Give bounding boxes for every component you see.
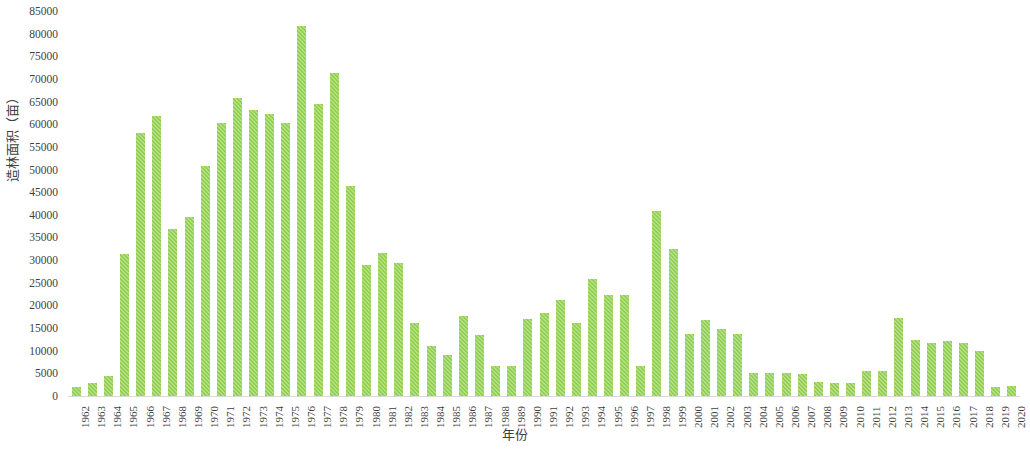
bar-1968[interactable] [168,229,177,397]
x-axis-tick-1968: 1968 [177,406,188,428]
y-axis-tick-15000: 15000 [29,323,58,335]
x-axis-tick-2013: 2013 [903,406,914,428]
y-axis-tick-85000: 85000 [29,6,58,18]
bar-2005[interactable] [765,373,774,397]
bar-1996[interactable] [620,295,629,397]
y-axis-tick-40000: 40000 [29,210,58,222]
plot-area [68,12,1020,397]
bar-1971[interactable] [217,123,226,397]
x-axis-tick-1977: 1977 [322,406,333,428]
bar-1993[interactable] [572,323,581,397]
bar-1998[interactable] [652,211,661,397]
bar-chart: 造林面积（亩） 05000100001500020000250003000035… [0,0,1030,450]
y-axis-tick-10000: 10000 [29,346,58,358]
x-axis-tick-1972: 1972 [241,406,252,428]
x-axis-tick-2020: 2020 [1016,406,1027,428]
x-axis-tick-2009: 2009 [838,406,849,428]
x-axis-tick-2019: 2019 [1000,406,1011,428]
bar-2014[interactable] [911,340,920,397]
x-axis-tick-1991: 1991 [548,406,559,428]
bar-1977[interactable] [314,104,323,397]
bar-2012[interactable] [878,371,887,397]
bar-1987[interactable] [475,335,484,397]
bar-1979[interactable] [346,186,355,397]
y-axis-tick-5000: 5000 [35,368,58,380]
x-axis-tick-1996: 1996 [629,406,640,428]
bar-1976[interactable] [297,26,306,397]
y-axis-tick-30000: 30000 [29,255,58,267]
bar-2011[interactable] [862,371,871,397]
bar-1984[interactable] [427,346,436,397]
bar-1972[interactable] [233,98,242,397]
bar-1969[interactable] [185,217,194,397]
bar-2008[interactable] [814,382,823,397]
bar-1994[interactable] [588,279,597,397]
bar-1989[interactable] [507,366,516,397]
bar-2002[interactable] [717,329,726,397]
bar-2004[interactable] [749,373,758,397]
bar-2010[interactable] [846,383,855,397]
bar-2013[interactable] [894,318,903,397]
x-axis-tick-1992: 1992 [564,406,575,428]
x-axis-tick-2014: 2014 [919,406,930,428]
bar-1980[interactable] [362,265,371,397]
x-axis-tick-1969: 1969 [193,406,204,428]
x-axis-tick-2015: 2015 [935,406,946,428]
bar-1990[interactable] [523,319,532,397]
bar-1983[interactable] [410,323,419,397]
bar-1975[interactable] [281,123,290,397]
y-axis-tick-55000: 55000 [29,142,58,154]
bar-1974[interactable] [265,114,274,397]
bar-1997[interactable] [636,366,645,397]
bar-2007[interactable] [798,374,807,397]
bar-1999[interactable] [669,249,678,397]
y-axis-tick-80000: 80000 [29,29,58,41]
bar-1988[interactable] [491,366,500,397]
bar-2018[interactable] [975,351,984,397]
bar-2001[interactable] [701,320,710,397]
bar-2009[interactable] [830,383,839,397]
bar-1967[interactable] [152,116,161,397]
x-axis-tick-2016: 2016 [951,406,962,428]
bar-1991[interactable] [540,313,549,397]
x-axis-tick-2011: 2011 [871,406,882,428]
bar-2003[interactable] [733,334,742,397]
bar-1963[interactable] [88,383,97,397]
bar-2000[interactable] [685,334,694,397]
bar-2006[interactable] [782,373,791,397]
y-axis-tick-65000: 65000 [29,97,58,109]
bar-1986[interactable] [459,316,468,397]
x-axis-tick-1998: 1998 [661,406,672,428]
x-axis-tick-1983: 1983 [419,406,430,428]
bar-1981[interactable] [378,253,387,397]
x-axis-tick-1980: 1980 [371,406,382,428]
bar-1985[interactable] [443,355,452,397]
x-axis-tick-1982: 1982 [403,406,414,428]
x-axis-tick-1962: 1962 [80,406,91,428]
x-axis-tick-1964: 1964 [112,406,123,428]
bar-1966[interactable] [136,133,145,397]
y-axis-tick-25000: 25000 [29,278,58,290]
x-axis-tick-1984: 1984 [435,406,446,428]
bar-1964[interactable] [104,376,113,397]
x-axis-tick-1971: 1971 [225,406,236,428]
x-axis-tick-1994: 1994 [596,406,607,428]
x-axis-tick-1979: 1979 [354,406,365,428]
x-axis-tick-1986: 1986 [467,406,478,428]
y-axis-tick-35000: 35000 [29,232,58,244]
x-axis-tick-1987: 1987 [483,406,494,428]
bar-2017[interactable] [959,343,968,397]
bar-1995[interactable] [604,295,613,397]
bar-1978[interactable] [330,73,339,397]
bar-1973[interactable] [249,110,258,397]
bar-1982[interactable] [394,263,403,397]
bar-2016[interactable] [943,341,952,397]
bar-1970[interactable] [201,166,210,397]
bar-1992[interactable] [556,300,565,397]
x-axis-tick-1965: 1965 [128,406,139,428]
bar-2015[interactable] [927,343,936,397]
x-axis-tick-1997: 1997 [645,406,656,428]
x-axis-tick-1999: 1999 [677,406,688,428]
x-axis-tick-1963: 1963 [96,406,107,428]
bar-1965[interactable] [120,254,129,397]
